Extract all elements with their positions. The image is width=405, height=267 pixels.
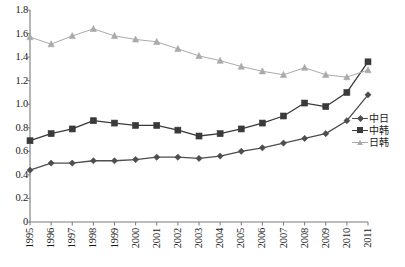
legend-item-中韩[interactable]: 中韩 — [352, 125, 404, 136]
line-chart: 00.20.40.60.81.01.21.41.61.8 19951996199… — [0, 0, 405, 267]
legend-label: 中韩 — [368, 125, 388, 136]
x-axis-tick-label: 2002 — [173, 228, 183, 248]
legend-marker-triangle-icon — [357, 140, 363, 145]
x-axis-tick-label: 1997 — [67, 228, 77, 248]
legend-label: 中日 — [368, 113, 388, 124]
x-axis-tick-label: 1995 — [25, 228, 35, 248]
legend-label: 日韩 — [368, 137, 388, 148]
chart-legend: 中日中韩日韩 — [352, 113, 404, 149]
x-axis-tick-label: 2008 — [300, 228, 310, 248]
x-axis-tick-label: 1999 — [110, 228, 120, 248]
x-axis-tick-label: 2010 — [342, 228, 352, 248]
x-axis-tick-label: 2007 — [279, 228, 289, 248]
x-axis-tick-label: 2005 — [236, 228, 246, 248]
legend-item-日韩[interactable]: 日韩 — [352, 137, 404, 148]
legend-key-diamond-icon — [352, 113, 368, 124]
x-axis-tick-labels: 1995199619971998199920002001200220032004… — [0, 0, 405, 267]
x-axis-tick-label: 2004 — [215, 228, 225, 248]
x-axis-tick-label: 1998 — [88, 228, 98, 248]
legend-marker-square-icon — [357, 127, 363, 133]
legend-marker-diamond-icon — [356, 115, 363, 122]
x-axis-tick-label: 2001 — [152, 228, 162, 248]
legend-item-中日[interactable]: 中日 — [352, 113, 404, 124]
x-axis-tick-label: 2006 — [257, 228, 267, 248]
x-axis-tick-label: 2000 — [131, 228, 141, 248]
legend-key-triangle-icon — [352, 137, 368, 148]
x-axis-tick-label: 1996 — [46, 228, 56, 248]
x-axis-tick-label: 2011 — [363, 228, 373, 248]
x-axis-tick-label: 2009 — [321, 228, 331, 248]
x-axis-tick-label: 2003 — [194, 228, 204, 248]
legend-key-square-icon — [352, 125, 368, 136]
